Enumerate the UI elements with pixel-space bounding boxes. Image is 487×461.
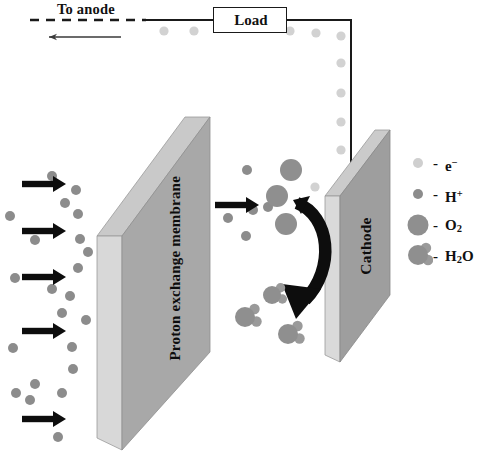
proton-particle xyxy=(5,211,15,221)
cathode-label: Cathode xyxy=(357,203,375,289)
electron-dot xyxy=(407,148,433,178)
proton-flow-arrow xyxy=(22,269,66,285)
legend-dash: - xyxy=(433,241,438,271)
electron-particle xyxy=(311,28,320,37)
oxygen-molecule xyxy=(275,213,297,235)
load-label: Load xyxy=(214,8,288,34)
membrane-label: Proton exchange membrane xyxy=(167,201,184,361)
proton-particle xyxy=(8,343,18,353)
to-anode-label: To anode xyxy=(57,1,115,18)
proton-flow-arrow xyxy=(22,323,66,339)
proton-particle xyxy=(75,234,85,244)
proton-particle xyxy=(68,364,78,374)
electron-particle xyxy=(310,182,319,191)
proton-particle xyxy=(57,388,67,398)
proton-dot xyxy=(407,179,433,209)
oxygen-molecule xyxy=(266,185,288,207)
proton-particle xyxy=(30,379,40,389)
proton-particle xyxy=(53,432,63,442)
proton-flow-arrow xyxy=(22,411,66,427)
legend: -e−-H+-O2-H2O xyxy=(405,148,487,273)
legend-dash: - xyxy=(433,179,438,209)
water-molecule xyxy=(235,304,262,327)
proton-particle xyxy=(83,247,93,257)
legend-item-water: -H2O xyxy=(405,241,487,271)
proton-exchange-membrane-slab xyxy=(97,117,210,450)
water-molecule xyxy=(407,241,433,271)
proton-particle xyxy=(73,263,83,273)
legend-dash: - xyxy=(433,210,438,240)
legend-item-oxygen: -O2 xyxy=(405,210,487,240)
electron-particle xyxy=(159,26,168,35)
proton-particle xyxy=(223,213,233,223)
legend-label-oxygen: O2 xyxy=(445,210,462,240)
proton-particle xyxy=(73,209,83,219)
oxygen-molecule xyxy=(280,159,302,181)
electron-particle xyxy=(336,31,345,40)
proton-particle xyxy=(71,185,81,195)
electron-particle xyxy=(336,88,345,97)
proton-particle xyxy=(57,308,67,318)
proton-particle xyxy=(81,315,91,325)
proton-flow-arrow xyxy=(22,176,66,192)
legend-item-electron: -e− xyxy=(405,148,487,178)
electron-particle xyxy=(336,145,345,154)
electron-particle xyxy=(336,117,345,126)
proton-particle xyxy=(65,291,75,301)
legend-item-proton: -H+ xyxy=(405,179,487,209)
load-box[interactable]: Load xyxy=(213,7,287,33)
oxygen-circle xyxy=(407,210,433,240)
legend-label-proton: H+ xyxy=(445,179,463,209)
electron-particle xyxy=(189,26,198,35)
proton-particle xyxy=(25,395,35,405)
proton-flow-arrow xyxy=(22,223,66,239)
proton-particle xyxy=(60,198,70,208)
proton-particle xyxy=(47,284,57,294)
proton-particle xyxy=(241,231,251,241)
proton-particle xyxy=(30,235,40,245)
proton-particle xyxy=(242,165,252,175)
water-molecule xyxy=(278,321,305,344)
fuel-cell-diagram: To anode Load Proton exchange membrane C… xyxy=(0,0,487,461)
legend-dash: - xyxy=(433,148,438,178)
proton-particle xyxy=(11,388,21,398)
electron-particle xyxy=(336,58,345,67)
water-molecule xyxy=(263,283,287,304)
proton-particle xyxy=(10,273,20,283)
proton-particle xyxy=(67,342,77,352)
legend-label-water: H2O xyxy=(445,241,474,271)
legend-label-electron: e− xyxy=(445,148,458,178)
